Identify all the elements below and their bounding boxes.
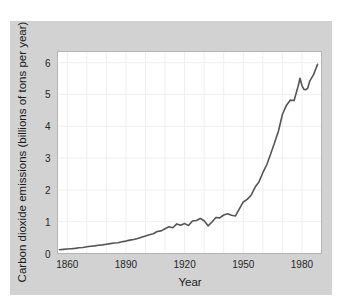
y-tick-label: 6 bbox=[45, 58, 51, 69]
x-tick-label: 1980 bbox=[291, 259, 314, 270]
figure-container: 0123456 18601890192019501980 Year Carbon… bbox=[0, 0, 346, 307]
co2-emissions-line-chart: 0123456 18601890192019501980 Year Carbon… bbox=[10, 21, 332, 295]
x-tick-label: 1920 bbox=[173, 259, 196, 270]
y-tick-label: 4 bbox=[45, 121, 51, 132]
x-tick-label: 1950 bbox=[232, 259, 255, 270]
chart-panel: 0123456 18601890192019501980 Year Carbon… bbox=[10, 21, 332, 295]
x-axis-tick-labels: 18601890192019501980 bbox=[56, 259, 313, 270]
y-tick-label: 2 bbox=[45, 185, 51, 196]
y-axis-tick-labels: 0123456 bbox=[45, 58, 51, 260]
y-axis-title: Carbon dioxide emissions (billions of to… bbox=[16, 21, 28, 282]
y-tick-label: 0 bbox=[45, 249, 51, 260]
x-tick-label: 1890 bbox=[115, 259, 138, 270]
x-axis-title: Year bbox=[178, 276, 201, 288]
y-tick-label: 5 bbox=[45, 89, 51, 100]
x-tick-label: 1860 bbox=[56, 259, 79, 270]
y-tick-label: 1 bbox=[45, 217, 51, 228]
y-tick-label: 3 bbox=[45, 153, 51, 164]
